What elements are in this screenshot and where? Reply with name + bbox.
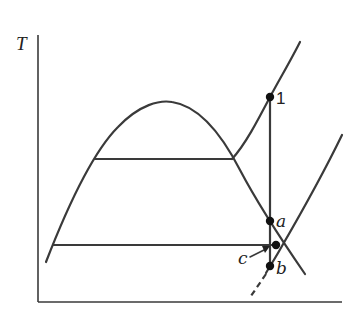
superheated-isobar: [232, 42, 300, 159]
y-axis-label: T: [16, 33, 28, 54]
t-s-diagram: T 1 a b c: [0, 0, 363, 313]
state-point-b: [266, 262, 274, 270]
arrow-c-head-icon: [262, 246, 270, 253]
dashed-extension: [251, 274, 266, 296]
state-point-c: [272, 241, 280, 249]
label-point-a: a: [276, 211, 286, 231]
label-point-c: c: [238, 248, 248, 268]
label-point-b: b: [276, 258, 287, 278]
state-point-a: [266, 217, 274, 225]
state-point-1: [266, 93, 274, 101]
second-isobar-curve: [266, 135, 342, 273]
arrow-c-shaft: [250, 249, 266, 257]
label-point-1: 1: [276, 89, 285, 108]
